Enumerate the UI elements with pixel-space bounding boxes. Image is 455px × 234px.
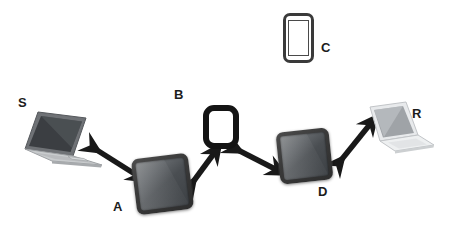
- device-a-screen: [135, 157, 189, 211]
- node-label-r: R: [412, 107, 422, 120]
- device-b-tablet[interactable]: [203, 105, 239, 149]
- node-label-d: D: [318, 185, 328, 198]
- diagram-canvas: S A B C D R: [0, 0, 455, 234]
- node-label-a: A: [113, 200, 123, 213]
- connection-arrow-a-b: [190, 152, 215, 186]
- node-label-c: C: [321, 41, 331, 54]
- device-c-smartphone[interactable]: [283, 13, 314, 63]
- node-label-b: B: [174, 88, 184, 101]
- device-c-screen: [288, 20, 309, 56]
- connection-arrow-b-d: [234, 148, 277, 170]
- node-label-s: S: [18, 96, 27, 109]
- device-s-laptop[interactable]: [24, 108, 110, 170]
- device-r-laptop[interactable]: [362, 101, 436, 155]
- device-d-tablet[interactable]: [275, 127, 333, 184]
- device-d-screen: [280, 132, 329, 180]
- device-a-tablet[interactable]: [131, 153, 194, 216]
